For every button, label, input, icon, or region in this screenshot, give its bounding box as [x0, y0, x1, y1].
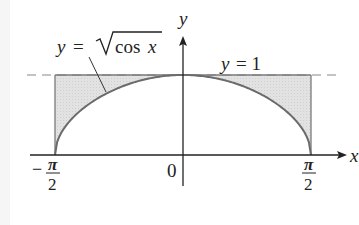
- x-axis-label: x: [349, 145, 359, 166]
- y-axis-label: y: [177, 8, 188, 29]
- svg-text:2: 2: [304, 175, 313, 194]
- tick-label-pi-over-2: π 2: [302, 155, 316, 194]
- svg-text:x: x: [147, 36, 157, 57]
- diagram-canvas: y = cos x y = 1 x y 0 − π 2 π 2: [0, 0, 359, 225]
- svg-text:= 1: = 1: [236, 53, 261, 74]
- svg-text:y: y: [219, 53, 230, 74]
- line-label: y = 1: [219, 53, 261, 74]
- svg-text:=: =: [73, 36, 84, 57]
- svg-text:π: π: [48, 155, 58, 174]
- svg-text:cos: cos: [115, 36, 140, 57]
- svg-text:y: y: [55, 36, 66, 57]
- origin-label: 0: [167, 160, 177, 181]
- svg-text:−: −: [32, 159, 42, 179]
- svg-text:2: 2: [48, 175, 57, 194]
- tick-label-neg-pi-over-2: − π 2: [32, 155, 60, 194]
- curve-label: y = cos x: [55, 32, 162, 57]
- svg-text:π: π: [304, 155, 314, 174]
